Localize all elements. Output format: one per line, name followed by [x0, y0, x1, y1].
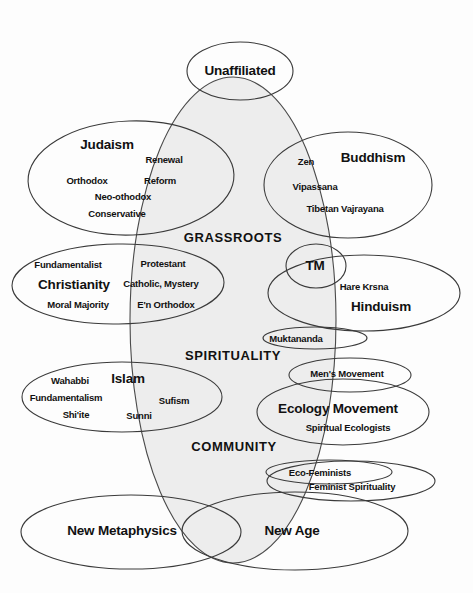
label-mens-movement: Men's Movement [310, 368, 383, 379]
label-judaism-reform: Reform [144, 175, 176, 186]
label-feminist-spirituality: Feminist Spirituality [309, 481, 396, 492]
label-buddhism-zen: Zen [298, 156, 314, 167]
label-islam: Islam [111, 371, 145, 386]
label-christianity-fundamentalist: Fundamentalist [34, 259, 101, 270]
label-new-age: New Age [264, 523, 319, 538]
label-christianity-protestant: Protestant [141, 258, 186, 269]
label-hinduism-hare-krsna: Hare Krsna [340, 281, 389, 292]
label-judaism-renewal: Renewal [145, 154, 182, 165]
center-label-grassroots: GRASSROOTS [184, 230, 282, 245]
label-islam-sufism: Sufism [159, 395, 189, 406]
label-tm: TM [305, 258, 324, 273]
center-label-community: COMMUNITY [191, 439, 277, 454]
venn-shapes-layer [0, 0, 473, 593]
label-buddhism: Buddhism [341, 150, 405, 165]
label-christianity-catholic-mystery: Catholic, Mystery [123, 278, 198, 289]
label-muktananda: Muktananda [269, 333, 322, 344]
label-hinduism: Hinduism [351, 299, 411, 314]
label-judaism-neo-othodox: Neo-othodox [95, 191, 151, 202]
label-eco-feminists: Eco-Feminists [289, 467, 351, 478]
label-judaism-conservative: Conservative [88, 208, 145, 219]
venn-diagram-canvas: GRASSROOTS SPIRITUALITY COMMUNITY Unaffi… [0, 0, 473, 593]
label-islam-sunni: Sunni [126, 410, 151, 421]
label-new-metaphysics: New Metaphysics [67, 523, 177, 538]
label-unaffiliated: Unaffiliated [204, 63, 275, 78]
label-ecology-movement: Ecology Movement [278, 401, 398, 416]
label-islam-wahabbi: Wahabbi [51, 375, 89, 386]
label-buddhism-tibetan-vajrayana: Tibetan Vajrayana [306, 203, 383, 214]
label-christianity-moral-majority: Moral Majority [47, 299, 109, 310]
label-buddhism-vipassana: Vipassana [292, 181, 337, 192]
center-label-spirituality: SPIRITUALITY [185, 348, 281, 363]
label-islam-fundamentalism: Fundamentalism [30, 392, 103, 403]
label-judaism-orthodox: Orthodox [66, 175, 107, 186]
label-christianity-en-orthodox: E'n Orthodox [137, 299, 194, 310]
label-islam-shiite: Shi'ite [63, 409, 90, 420]
label-spiritual-ecologists: Spiritual Ecologists [306, 422, 391, 433]
label-judaism: Judaism [80, 137, 133, 152]
label-christianity: Christianity [38, 277, 110, 292]
